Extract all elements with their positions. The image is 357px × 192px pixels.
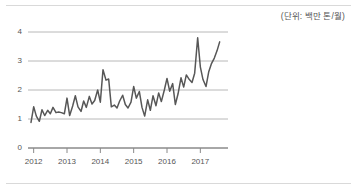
x-axis-label: 2013 xyxy=(52,157,82,166)
y-axis-label: 3 xyxy=(8,56,22,65)
x-axis-label: 2016 xyxy=(152,157,182,166)
x-axis-label: 2014 xyxy=(85,157,115,166)
y-axis-label: 2 xyxy=(8,85,22,94)
data-series-line xyxy=(31,38,220,123)
y-axis-label: 1 xyxy=(8,114,22,123)
x-axis-label: 2015 xyxy=(119,157,149,166)
y-axis-label: 4 xyxy=(8,27,22,36)
y-axis-label: 0 xyxy=(8,143,22,152)
x-axis-label: 2017 xyxy=(185,157,215,166)
chart-figure: (단위: 백만 톤/월) 01234 201220132014201520162… xyxy=(0,0,357,192)
x-tick-marks xyxy=(34,148,201,153)
x-axis-label: 2012 xyxy=(19,157,49,166)
